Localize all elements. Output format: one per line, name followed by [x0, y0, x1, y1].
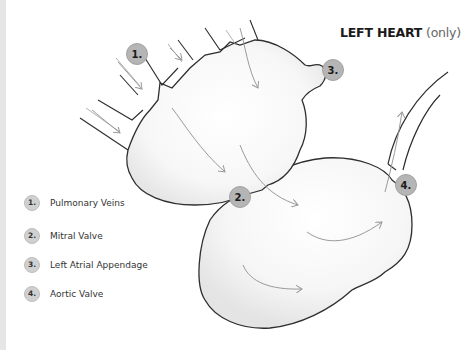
title-main: LEFT HEART	[340, 25, 422, 40]
aorta	[388, 72, 448, 170]
badge-mitral-valve: 2.	[229, 186, 251, 208]
legend-item: 1. Pulmonary Veins	[24, 188, 148, 217]
badge-pulmonary-veins: 1.	[126, 43, 148, 65]
legend-item: 3. Left Atrial Appendage	[24, 250, 148, 279]
legend-label: Pulmonary Veins	[50, 198, 125, 208]
legend-item: 4. Aortic Valve	[24, 279, 148, 308]
legend-badge: 4.	[24, 286, 40, 302]
badge-aortic-valve: 4.	[395, 174, 417, 196]
diagram-title: LEFT HEART (only)	[340, 25, 461, 40]
legend-badge: 3.	[24, 257, 40, 273]
title-qualifier: (only)	[426, 25, 461, 40]
legend-label: Aortic Valve	[50, 289, 103, 299]
legend-label: Mitral Valve	[50, 231, 103, 241]
legend-item: 2. Mitral Valve	[24, 221, 148, 250]
legend-badge: 1.	[24, 195, 40, 211]
legend: 1. Pulmonary Veins 2. Mitral Valve 3. Le…	[24, 188, 148, 308]
badge-left-atrial-appendage: 3.	[322, 59, 344, 81]
legend-badge: 2.	[24, 228, 40, 244]
legend-label: Left Atrial Appendage	[50, 260, 148, 270]
